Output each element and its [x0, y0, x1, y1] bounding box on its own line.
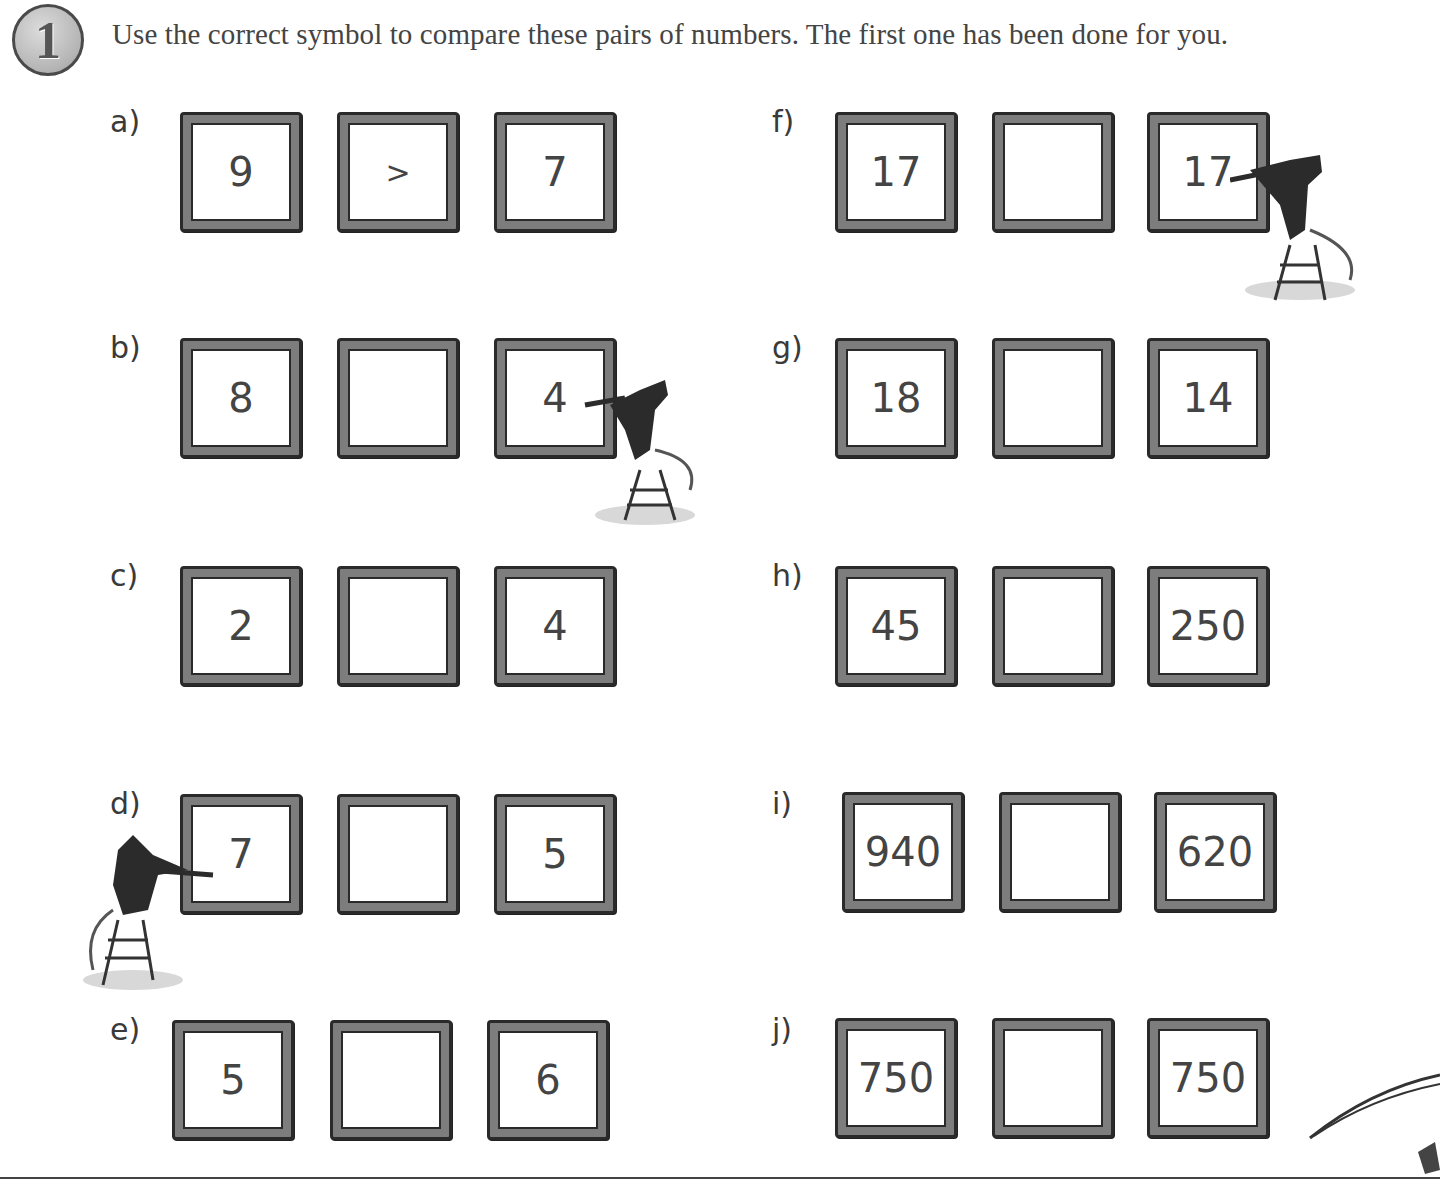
left-number-box-f: 17	[835, 112, 957, 232]
right-number-g: 14	[1158, 349, 1258, 447]
symbol-box-d[interactable]	[337, 794, 459, 914]
right-number-box-a: 7	[494, 112, 616, 232]
left-number-b: 8	[191, 349, 291, 447]
question-label-b: b)	[110, 330, 141, 365]
symbol-c[interactable]	[348, 577, 448, 675]
question-label-j: j)	[772, 1012, 792, 1047]
symbol-a[interactable]: >	[348, 123, 448, 221]
right-number-j: 750	[1158, 1029, 1258, 1127]
right-number-h: 250	[1158, 577, 1258, 675]
question-label-g: g)	[772, 330, 803, 365]
question-number-badge: 1	[12, 4, 84, 76]
left-number-box-a: 9	[180, 112, 302, 232]
right-number-box-j: 750	[1147, 1018, 1269, 1138]
left-number-h: 45	[846, 577, 946, 675]
right-number-box-d: 5	[494, 794, 616, 914]
symbol-f[interactable]	[1003, 123, 1103, 221]
symbol-box-f[interactable]	[992, 112, 1114, 232]
left-number-box-g: 18	[835, 338, 957, 458]
symbol-b[interactable]	[348, 349, 448, 447]
right-number-d: 5	[505, 805, 605, 903]
question-label-c: c)	[110, 558, 138, 593]
question-number: 1	[35, 11, 61, 70]
right-number-a: 7	[505, 123, 605, 221]
question-label-h: h)	[772, 558, 803, 593]
symbol-g[interactable]	[1003, 349, 1103, 447]
symbol-box-i[interactable]	[999, 792, 1121, 912]
question-label-f: f)	[772, 104, 794, 139]
left-number-i: 940	[853, 803, 953, 901]
right-number-i: 620	[1165, 803, 1265, 901]
symbol-j[interactable]	[1003, 1029, 1103, 1127]
rat-on-ladder-illustration-d	[78, 830, 218, 995]
symbol-box-h[interactable]	[992, 566, 1114, 686]
symbol-box-e[interactable]	[330, 1020, 452, 1140]
symbol-box-g[interactable]	[992, 338, 1114, 458]
left-number-c: 2	[191, 577, 291, 675]
bottom-divider	[0, 1177, 1440, 1179]
symbol-i[interactable]	[1010, 803, 1110, 901]
left-number-box-b: 8	[180, 338, 302, 458]
symbol-h[interactable]	[1003, 577, 1103, 675]
left-number-box-h: 45	[835, 566, 957, 686]
question-label-i: i)	[772, 786, 792, 821]
left-number-box-j: 750	[835, 1018, 957, 1138]
right-number-e: 6	[498, 1031, 598, 1129]
symbol-box-c[interactable]	[337, 566, 459, 686]
right-number-box-c: 4	[494, 566, 616, 686]
symbol-box-j[interactable]	[992, 1018, 1114, 1138]
question-label-d: d)	[110, 786, 141, 821]
right-number-box-g: 14	[1147, 338, 1269, 458]
left-number-box-i: 940	[842, 792, 964, 912]
right-number-box-e: 6	[487, 1020, 609, 1140]
symbol-box-b[interactable]	[337, 338, 459, 458]
left-number-box-c: 2	[180, 566, 302, 686]
question-label-a: a)	[110, 104, 140, 139]
symbol-box-a[interactable]: >	[337, 112, 459, 232]
left-number-e: 5	[183, 1031, 283, 1129]
left-number-box-e: 5	[172, 1020, 294, 1140]
left-number-a: 9	[191, 123, 291, 221]
symbol-e[interactable]	[341, 1031, 441, 1129]
rat-on-ladder-illustration-b	[580, 370, 710, 530]
left-number-f: 17	[846, 123, 946, 221]
rat-tail-illustration	[1300, 1070, 1440, 1180]
question-label-e: e)	[110, 1012, 140, 1047]
right-number-box-h: 250	[1147, 566, 1269, 686]
symbol-d[interactable]	[348, 805, 448, 903]
left-number-j: 750	[846, 1029, 946, 1127]
rat-on-ladder-illustration-f	[1230, 150, 1370, 310]
instruction-text: Use the correct symbol to compare these …	[112, 18, 1228, 51]
right-number-c: 4	[505, 577, 605, 675]
right-number-box-i: 620	[1154, 792, 1276, 912]
left-number-g: 18	[846, 349, 946, 447]
